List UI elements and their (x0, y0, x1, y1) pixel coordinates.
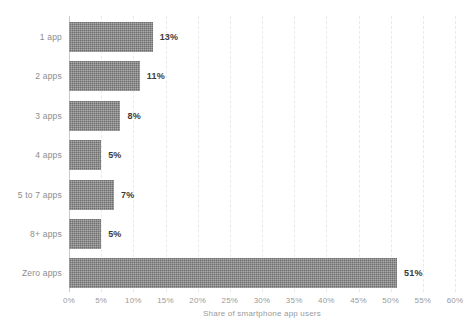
x-axis-tick-label: 45% (350, 296, 367, 305)
bar-value-label: 51% (404, 268, 423, 278)
y-axis-category-label: 5 to 7 apps (18, 180, 62, 210)
bar (69, 219, 101, 249)
bar (69, 180, 114, 210)
x-axis-tick-label: 20% (189, 296, 206, 305)
bar-row: 5% (69, 219, 455, 249)
bar (69, 22, 153, 52)
gridline (455, 16, 457, 292)
bar-row: 8% (69, 101, 455, 131)
bar-row: 51% (69, 258, 455, 288)
bars-layer: 13%11%8%5%7%5%51% (69, 16, 455, 292)
bar-row: 13% (69, 22, 455, 52)
bar-chart: 1 app2 apps3 apps4 apps5 to 7 apps8+ app… (0, 0, 475, 335)
x-axis-tick-label: 15% (157, 296, 174, 305)
x-axis-tick-label: 10% (125, 296, 142, 305)
x-axis-title: Share of smartphone app users (69, 309, 455, 318)
bar-value-label: 8% (127, 111, 140, 121)
x-axis-tick-label: 50% (382, 296, 399, 305)
bar (69, 101, 120, 131)
plot-area: 13%11%8%5%7%5%51% (69, 16, 455, 292)
x-axis-tick-label: 60% (447, 296, 464, 305)
y-axis-category-label: 1 app (40, 22, 62, 52)
x-axis-tick-label: 25% (222, 296, 239, 305)
y-axis-category-label: 3 apps (35, 101, 62, 131)
x-axis-tick-label: 35% (286, 296, 303, 305)
x-axis-tick-label: 40% (318, 296, 335, 305)
y-axis-category-label: Zero apps (22, 258, 62, 288)
y-axis-category-label: 8+ apps (30, 219, 62, 249)
y-axis-category-label: 2 apps (35, 61, 62, 91)
bar-row: 5% (69, 140, 455, 170)
bar (69, 140, 101, 170)
y-axis-category-labels: 1 app2 apps3 apps4 apps5 to 7 apps8+ app… (0, 16, 62, 292)
bar (69, 61, 140, 91)
x-axis-tick-label: 0% (63, 296, 75, 305)
x-axis-tick-label: 55% (415, 296, 432, 305)
bar-value-label: 7% (121, 190, 134, 200)
bar-row: 11% (69, 61, 455, 91)
x-axis-tick-label: 30% (254, 296, 271, 305)
bar-value-label: 5% (108, 229, 121, 239)
x-axis-tick-label: 5% (95, 296, 107, 305)
bar-row: 7% (69, 180, 455, 210)
bar (69, 258, 397, 288)
x-axis-tick-labels: 0%5%10%15%20%25%30%35%40%45%50%55%60% (69, 296, 455, 310)
bar-value-label: 5% (108, 150, 121, 160)
bar-value-label: 13% (160, 32, 179, 42)
bar-value-label: 11% (147, 71, 165, 81)
y-axis-category-label: 4 apps (35, 140, 62, 170)
